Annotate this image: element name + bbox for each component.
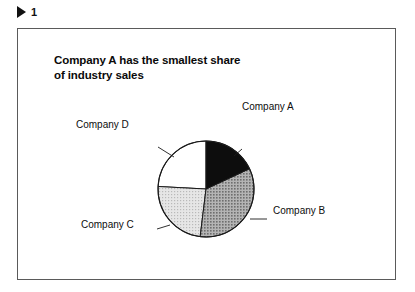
pie-chart-svg (18, 29, 397, 281)
pie-label-company-c: Company C (81, 219, 134, 231)
pie-slice-company-d (158, 141, 206, 189)
pie-label-company-b: Company B (273, 205, 325, 217)
play-triangle-icon (17, 6, 26, 18)
leader-line-company-d (158, 147, 174, 157)
pie-label-company-d: Company D (76, 119, 129, 131)
pie-chart: Company A Company B Company C Company D (18, 29, 397, 281)
pie-label-company-a: Company A (242, 101, 294, 113)
figure-number-marker: 1 (17, 5, 37, 19)
pie-slice-company-c (158, 186, 206, 236)
figure-frame: Company A has the smallest share of indu… (17, 28, 396, 280)
leader-line-company-c (157, 225, 170, 229)
figure-number: 1 (31, 6, 37, 18)
